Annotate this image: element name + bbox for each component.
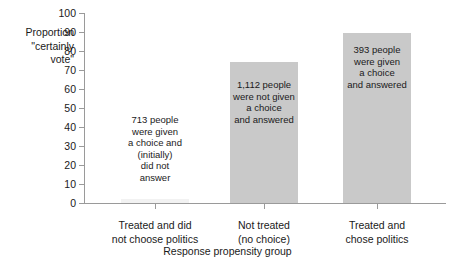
y-tick-label-100: 100 [44, 8, 76, 19]
y-tick-label-70: 70 [44, 65, 76, 76]
bar-chart: Proportion "certainly vote" 100 90 80 70… [0, 0, 455, 262]
x-tick-mark-3 [377, 204, 378, 209]
bar-annotation-treated-chose-politics: 393 people were given a choice and answe… [318, 44, 436, 90]
x-tick-label-treated-chose-politics: Treated and chose politics [302, 219, 452, 246]
y-tick-label-90: 90 [44, 27, 76, 38]
y-tick-label-50: 50 [44, 103, 76, 114]
x-tick-mark-2 [264, 204, 265, 209]
bar-annotation-treated-not-chose-politics: 713 people were given a choice and (init… [96, 114, 214, 183]
y-tick-label-40: 40 [44, 122, 76, 133]
y-tick-label-20: 20 [44, 160, 76, 171]
y-tick-label-80: 80 [44, 46, 76, 57]
bar-treated-not-chose-politics [121, 199, 189, 203]
x-tick-mark-1 [155, 204, 156, 209]
y-tick-label-60: 60 [44, 84, 76, 95]
x-axis-line [84, 203, 446, 204]
bar-annotation-not-treated-no-choice: 1,112 people were not given a choice and… [205, 79, 323, 125]
y-tick-mark-0 [79, 203, 84, 204]
y-tick-label-0: 0 [44, 198, 76, 209]
y-tick-label-30: 30 [44, 141, 76, 152]
y-tick-label-10: 10 [44, 179, 76, 190]
x-axis-title: Response propensity group [0, 245, 455, 257]
